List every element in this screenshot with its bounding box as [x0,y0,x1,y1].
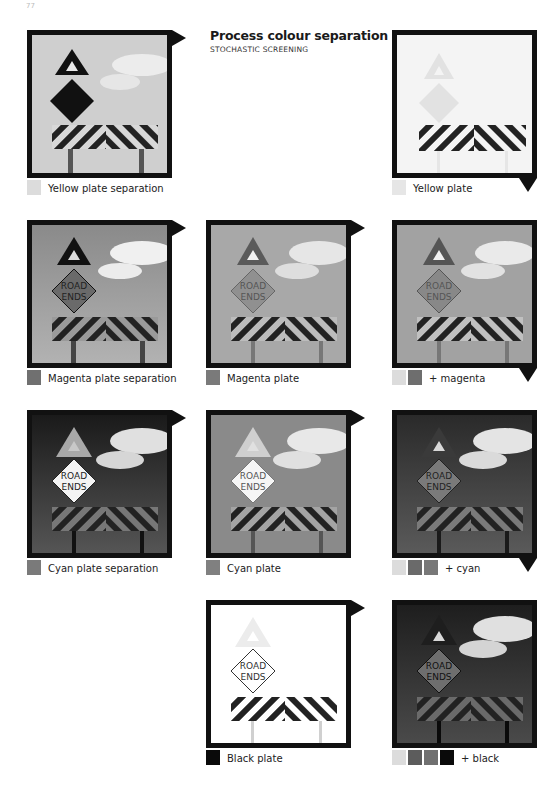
svg-text:ROAD: ROAD [61,471,87,481]
road-sign-image: ROAD ENDS [32,415,167,553]
color-swatch-cyan [424,560,438,575]
caption-row: + black [392,750,499,766]
color-swatch-cyan [424,750,438,765]
flag-right-icon [351,220,365,236]
road-sign-image: ROAD ENDS [397,225,532,363]
panel-yellow-plate: Yellow plate [392,30,537,182]
caption-row: + magenta [392,370,485,386]
svg-text:ENDS: ENDS [61,482,86,492]
caption-row: Cyan plate [206,560,281,576]
svg-text:ENDS: ENDS [426,482,451,492]
svg-text:ENDS: ENDS [240,672,265,682]
color-swatch-magenta [27,370,41,385]
road-sign-image: ROAD ENDS [397,605,532,743]
image-frame: ROAD ENDS [206,220,351,368]
color-swatch-yellow [27,180,41,195]
road-sign-image [397,35,532,173]
image-frame: ROAD ENDS [206,600,351,748]
road-sign-image: ROAD ENDS [211,225,346,363]
flag-right-icon [351,410,365,426]
image-frame: ROAD ENDS [206,410,351,558]
svg-text:ENDS: ENDS [240,292,265,302]
caption-row: Black plate [206,750,283,766]
flag-down-icon [519,368,537,382]
panel-cyan-separation: ROAD ENDS Cyan plate separation [27,410,172,562]
caption-row: Magenta plate [206,370,299,386]
svg-text:ENDS: ENDS [240,482,265,492]
caption: Yellow plate [413,183,472,194]
page-title: Process colour separation [210,28,388,43]
svg-text:ROAD: ROAD [240,661,266,671]
image-frame: ROAD ENDS [392,410,537,558]
svg-text:ROAD: ROAD [240,471,266,481]
caption: Cyan plate [227,563,281,574]
caption-row: Yellow plate separation [27,180,164,196]
color-swatch-magenta [408,370,422,385]
caption: + magenta [429,373,485,384]
image-frame [27,30,172,178]
svg-text:ENDS: ENDS [61,292,86,302]
image-frame [392,30,537,178]
svg-text:ROAD: ROAD [61,281,87,291]
panel-cyan-plate: ROAD ENDS Cyan plate [206,410,351,562]
panel-plus-magenta: ROAD ENDS + magenta [392,220,537,372]
color-swatch-magenta [408,560,422,575]
flag-right-icon [172,220,186,236]
color-swatch-magenta [206,370,220,385]
caption-row: Magenta plate separation [27,370,177,386]
flag-down-icon [519,558,537,572]
panel-yellow-separation: Yellow plate separation [27,30,172,182]
color-swatch-yellow [392,750,406,765]
panel-plus-black: ROAD ENDS + black [392,600,537,752]
color-swatch-yellow [392,180,406,195]
color-swatch-black [206,750,220,765]
caption: Cyan plate separation [48,563,158,574]
svg-text:ROAD: ROAD [426,661,452,671]
road-sign-image: ROAD ENDS [211,605,346,743]
color-swatch-black [440,750,454,765]
color-swatch-cyan [206,560,220,575]
svg-text:ENDS: ENDS [426,292,451,302]
road-sign-image [32,35,167,173]
road-sign-image: ROAD ENDS [211,415,346,553]
color-swatch-yellow [392,560,406,575]
image-frame: ROAD ENDS [27,220,172,368]
page-number: 77 [26,2,35,10]
color-swatch-magenta [408,750,422,765]
caption-row: + cyan [392,560,480,576]
color-swatch-yellow [392,370,406,385]
page-subtitle: STOCHASTIC SCREENING [210,45,308,54]
flag-right-icon [351,600,365,616]
flag-right-icon [172,410,186,426]
panel-black-plate: ROAD ENDS Black plate [206,600,351,752]
caption: + black [461,753,499,764]
image-frame: ROAD ENDS [392,600,537,748]
color-swatch-cyan [27,560,41,575]
caption-row: Cyan plate separation [27,560,158,576]
svg-text:ROAD: ROAD [240,281,266,291]
image-frame: ROAD ENDS [27,410,172,558]
panel-plus-cyan: ROAD ENDS + cyan [392,410,537,562]
svg-text:ROAD: ROAD [426,471,452,481]
caption: + cyan [445,563,480,574]
svg-text:ROAD: ROAD [426,281,452,291]
caption: Magenta plate separation [48,373,177,384]
flag-right-icon [172,30,186,46]
road-sign-image: ROAD ENDS [32,225,167,363]
caption: Black plate [227,753,283,764]
svg-text:ENDS: ENDS [426,672,451,682]
caption: Yellow plate separation [48,183,164,194]
flag-down-icon [519,178,537,192]
caption-row: Yellow plate [392,180,472,196]
panel-magenta-separation: ROAD ENDS Magenta plate separation [27,220,172,372]
panel-magenta-plate: ROAD ENDS Magenta plate [206,220,351,372]
image-frame: ROAD ENDS [392,220,537,368]
caption: Magenta plate [227,373,299,384]
road-sign-image: ROAD ENDS [397,415,532,553]
